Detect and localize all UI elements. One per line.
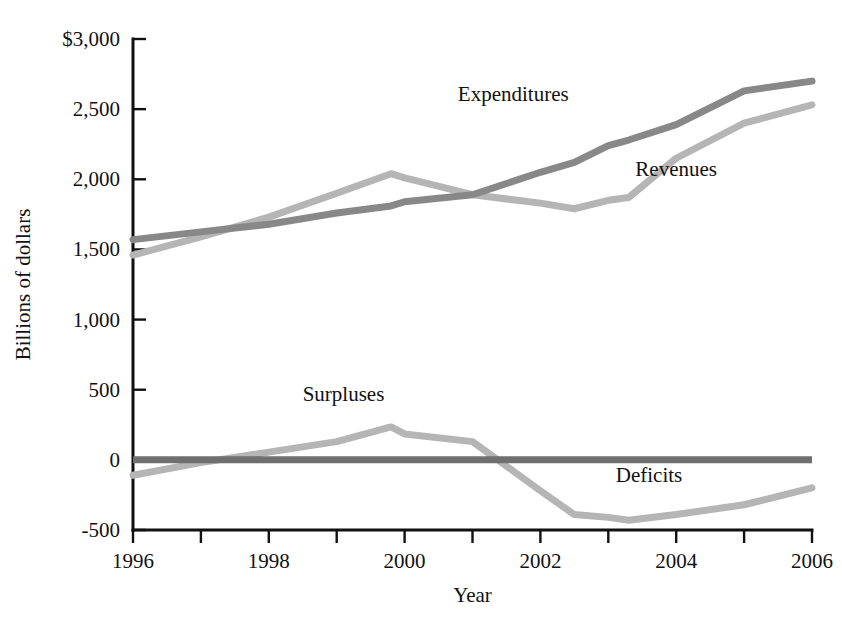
series-label-expenditures: Expenditures [458,82,569,106]
x-tick-label: 2006 [791,549,833,573]
y-tick-label: -500 [82,518,121,542]
line-chart: $3,0002,5002,0001,5001,0005000-500199619… [0,0,842,620]
series-label-deficits: Deficits [616,463,682,487]
y-tick-label: 2,000 [73,167,120,191]
chart-container: $3,0002,5002,0001,5001,0005000-500199619… [0,0,842,620]
series-label-revenues: Revenues [635,157,717,181]
y-tick-label: 1,500 [73,237,120,261]
y-tick-label: 500 [89,378,121,402]
x-tick-label: 2002 [519,549,561,573]
x-tick-label: 1996 [112,549,154,573]
x-tick-label: 2000 [384,549,426,573]
y-tick-label: $3,000 [62,27,120,51]
x-tick-label: 2004 [655,549,698,573]
x-tick-label: 1998 [248,549,290,573]
y-axis-title: Billions of dollars [11,209,35,361]
y-tick-label: 2,500 [73,97,120,121]
y-tick-label: 1,000 [73,308,120,332]
series-label-surpluses: Surpluses [303,382,385,406]
x-axis-title: Year [453,583,492,607]
series-line-surpluses [133,427,812,520]
y-tick-label: 0 [110,448,121,472]
